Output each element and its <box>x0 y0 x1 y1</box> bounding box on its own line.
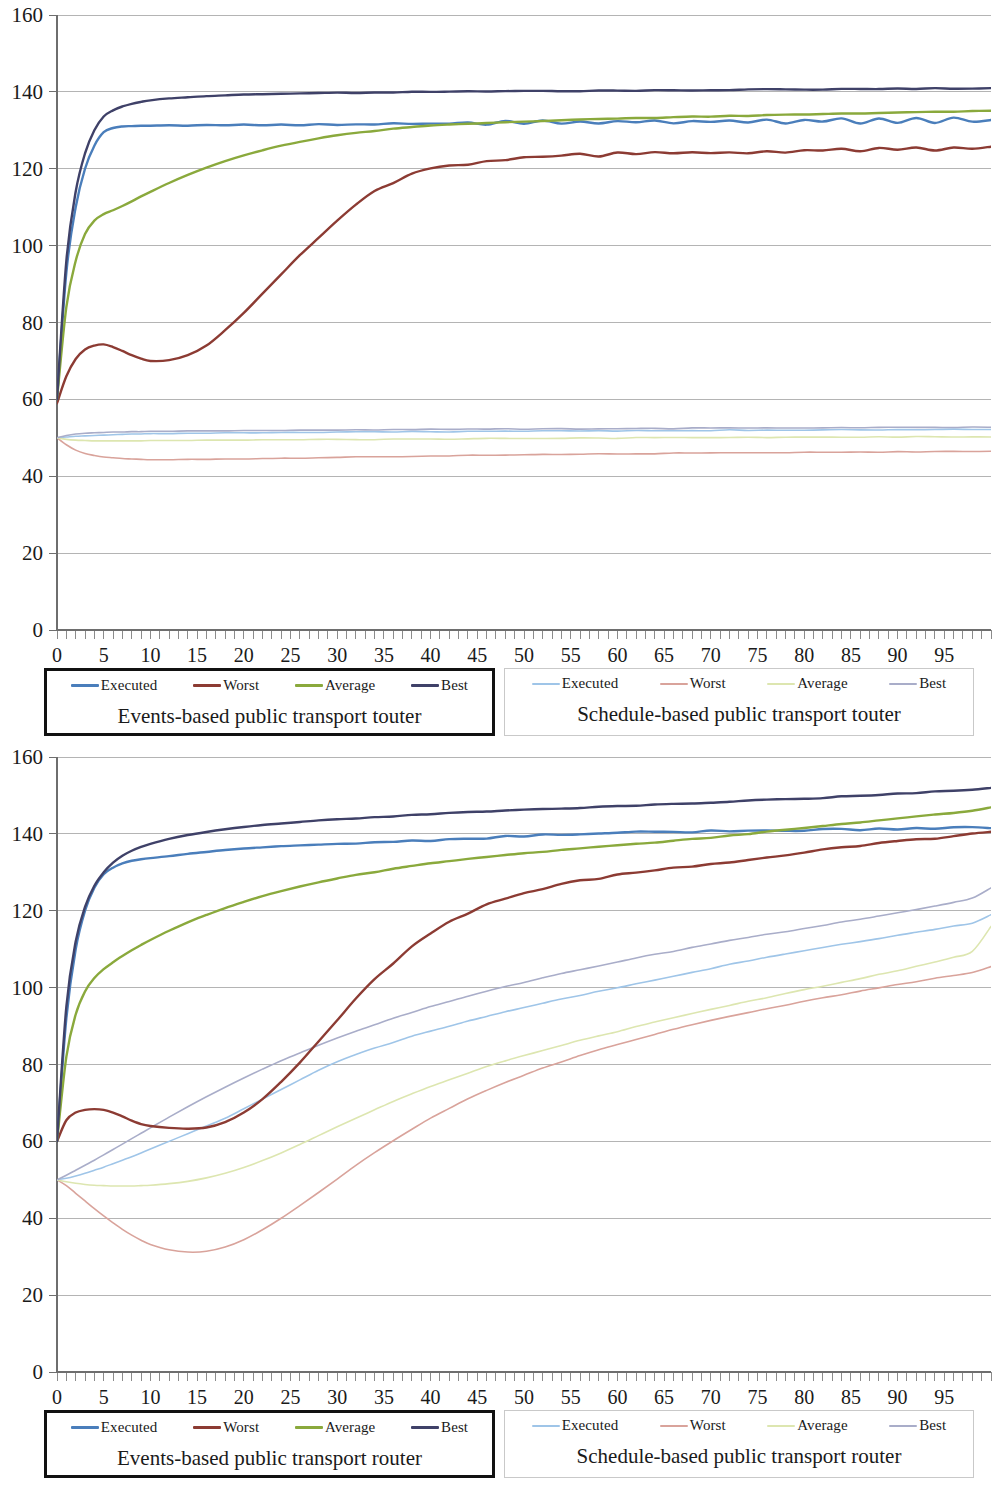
x-tick-label: 20 <box>234 1386 254 1408</box>
legend-entry-average[interactable]: Average <box>295 1419 375 1436</box>
top-legend-events-box[interactable]: Executed Worst Average Best Events-based… <box>44 668 495 736</box>
x-tick-label: 0 <box>52 1386 62 1408</box>
legend-label-worst-light: Worst <box>690 675 726 692</box>
legend-entry-best[interactable]: Best <box>411 1419 468 1436</box>
legend-swatch-average-light <box>767 1425 795 1427</box>
y-tick-label: 0 <box>33 618 44 642</box>
legend-label-worst: Worst <box>223 1419 259 1436</box>
y-tick-label: 80 <box>22 1053 43 1077</box>
x-tick-label: 40 <box>421 644 441 666</box>
legend-entry-worst[interactable]: Worst <box>193 1419 259 1436</box>
legend-swatch-worst-light <box>660 1425 688 1427</box>
legend-swatch-worst-light <box>660 683 688 685</box>
x-tick-label: 0 <box>52 644 62 666</box>
series-line-average-events <box>57 111 991 400</box>
legend-swatch-executed <box>71 1426 99 1429</box>
top-figure: 0204060801001201401600510152025303540455… <box>0 0 993 740</box>
y-tick-label: 80 <box>22 311 43 335</box>
legend-swatch-average-light <box>767 683 795 685</box>
x-tick-label: 65 <box>654 644 674 666</box>
legend-label-average: Average <box>325 677 375 694</box>
x-tick-label: 40 <box>421 1386 441 1408</box>
legend-entry-average-light[interactable]: Average <box>767 1417 847 1434</box>
x-tick-label: 45 <box>467 644 487 666</box>
top-legend-schedule-caption: Schedule-based public transport touter <box>505 698 973 730</box>
legend-label-best: Best <box>441 677 468 694</box>
x-tick-label: 95 <box>934 1386 954 1408</box>
top-legend-schedule-box[interactable]: Executed Worst Average Best Schedule-bas… <box>504 668 974 736</box>
x-tick-label: 45 <box>467 1386 487 1408</box>
x-tick-label: 95 <box>934 644 954 666</box>
legend-label-executed: Executed <box>101 1419 158 1436</box>
x-tick-label: 30 <box>327 644 347 666</box>
y-tick-label: 140 <box>12 80 44 104</box>
legend-entry-executed-light[interactable]: Executed <box>532 1417 619 1434</box>
x-tick-label: 70 <box>701 644 721 666</box>
x-tick-label: 60 <box>607 644 627 666</box>
y-tick-label: 100 <box>12 234 44 258</box>
legend-swatch-average <box>295 684 323 687</box>
y-tick-label: 160 <box>12 745 44 769</box>
series-line-executed-schedule <box>57 915 991 1180</box>
x-tick-label: 35 <box>374 644 394 666</box>
top-legend-events-caption: Events-based public transport touter <box>47 700 492 732</box>
series-line-best-events <box>57 788 991 1142</box>
bottom-figure: 0204060801001201401600510152025303540455… <box>0 742 993 1485</box>
bottom-legend-schedule-box[interactable]: Executed Worst Average Best Schedule-bas… <box>504 1410 974 1478</box>
bottom-legend-events-box[interactable]: Executed Worst Average Best Events-based… <box>44 1410 495 1478</box>
legend-label-best: Best <box>441 1419 468 1436</box>
legend-label-average: Average <box>325 1419 375 1436</box>
legend-entry-executed[interactable]: Executed <box>71 677 158 694</box>
x-tick-label: 85 <box>841 1386 861 1408</box>
legend-label-executed-light: Executed <box>562 675 619 692</box>
bottom-legend-schedule-caption: Schedule-based public transport router <box>505 1440 973 1472</box>
legend-entry-worst-light[interactable]: Worst <box>660 675 726 692</box>
top-chart-canvas: 0204060801001201401600510152025303540455… <box>0 0 993 668</box>
x-tick-label: 35 <box>374 1386 394 1408</box>
y-tick-label: 60 <box>22 387 43 411</box>
x-tick-label: 90 <box>888 1386 908 1408</box>
legend-swatch-best <box>411 684 439 687</box>
y-tick-label: 140 <box>12 822 44 846</box>
bottom-chart-canvas: 0204060801001201401600510152025303540455… <box>0 742 993 1410</box>
x-tick-label: 15 <box>187 1386 207 1408</box>
x-tick-label: 10 <box>140 1386 160 1408</box>
series-line-executed-events <box>57 827 991 1141</box>
top-legend-schedule-entries: Executed Worst Average Best <box>505 669 973 698</box>
legend-entry-worst-light[interactable]: Worst <box>660 1417 726 1434</box>
x-tick-label: 20 <box>234 644 254 666</box>
legend-entry-best-light[interactable]: Best <box>889 1417 946 1434</box>
legend-entry-best[interactable]: Best <box>411 677 468 694</box>
top-legend-row: Executed Worst Average Best Events-based… <box>0 668 993 740</box>
legend-swatch-best <box>411 1426 439 1429</box>
x-tick-label: 55 <box>561 1386 581 1408</box>
legend-label-average-light: Average <box>797 1417 847 1434</box>
y-tick-label: 120 <box>12 899 44 923</box>
series-line-average-schedule <box>57 436 991 440</box>
x-tick-label: 30 <box>327 1386 347 1408</box>
y-tick-label: 20 <box>22 1283 43 1307</box>
series-line-average-schedule <box>57 926 991 1186</box>
legend-swatch-best-light <box>889 1425 917 1427</box>
top-legend-events-entries: Executed Worst Average Best <box>47 671 492 700</box>
series-line-executed-events <box>57 118 991 400</box>
series-line-best-events <box>57 88 991 399</box>
legend-label-best-light: Best <box>919 1417 946 1434</box>
top-plot-area: 0204060801001201401600510152025303540455… <box>0 0 993 668</box>
legend-entry-executed-light[interactable]: Executed <box>532 675 619 692</box>
bottom-legend-schedule-entries: Executed Worst Average Best <box>505 1411 973 1440</box>
legend-swatch-best-light <box>889 683 917 685</box>
legend-entry-average-light[interactable]: Average <box>767 675 847 692</box>
legend-entry-executed[interactable]: Executed <box>71 1419 158 1436</box>
legend-entry-best-light[interactable]: Best <box>889 675 946 692</box>
legend-label-average-light: Average <box>797 675 847 692</box>
x-tick-label: 65 <box>654 1386 674 1408</box>
legend-entry-worst[interactable]: Worst <box>193 677 259 694</box>
y-tick-label: 40 <box>22 464 43 488</box>
legend-entry-average[interactable]: Average <box>295 677 375 694</box>
x-tick-label: 90 <box>888 644 908 666</box>
series-line-worst-schedule <box>57 967 991 1253</box>
x-tick-label: 5 <box>99 1386 109 1408</box>
x-tick-label: 25 <box>281 644 301 666</box>
bottom-legend-row: Executed Worst Average Best Events-based… <box>0 1410 993 1482</box>
